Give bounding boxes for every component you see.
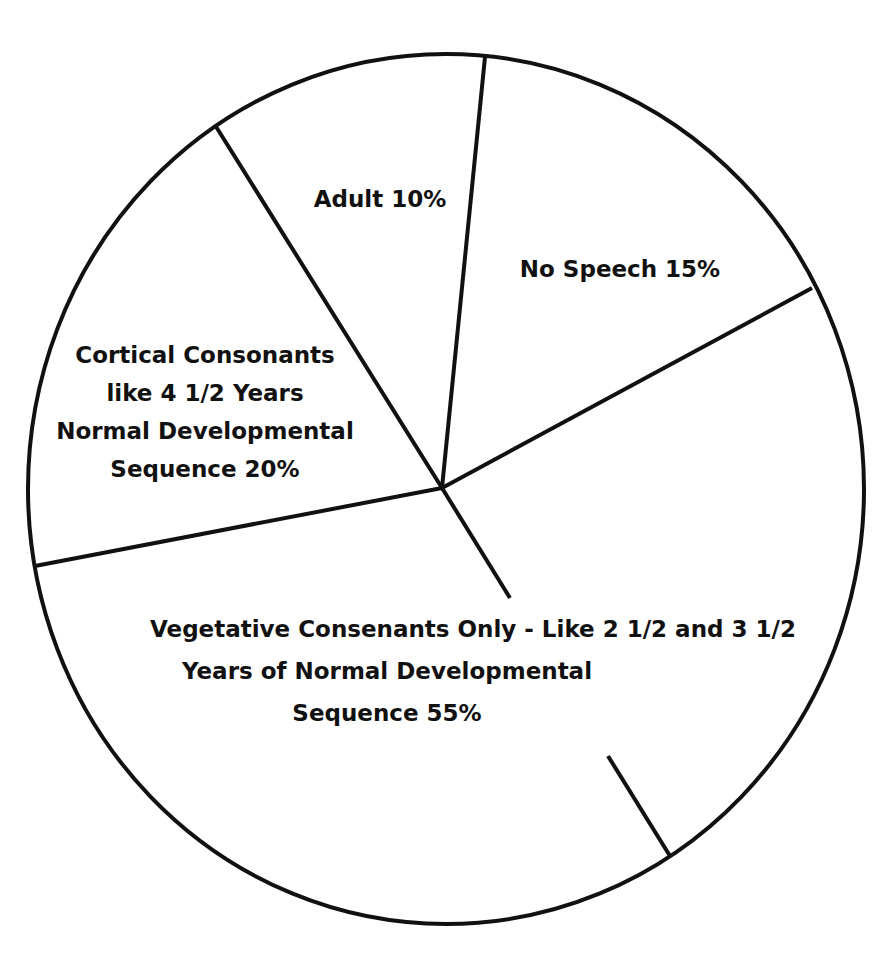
label-line: Sequence 55% — [142, 702, 632, 725]
label-line: Normal Developmental — [40, 420, 370, 443]
label-line: Adult 10% — [290, 188, 470, 211]
label-line: Years of Normal Developmental — [142, 660, 632, 683]
slice-label-no-speech: No Speech 15% — [500, 258, 740, 288]
slice-label-adult: Adult 10% — [290, 188, 470, 218]
label-line: Vegetative Consenants Only - Like 2 1/2 … — [150, 618, 640, 641]
slice-label-cortical: Cortical Consonants like 4 1/2 Years Nor… — [40, 344, 370, 494]
label-line: like 4 1/2 Years — [40, 382, 370, 405]
label-line: Sequence 20% — [40, 458, 370, 481]
slice-label-vegetative: Vegetative Consenants Only - Like 2 1/2 … — [150, 618, 640, 738]
label-line: No Speech 15% — [500, 258, 740, 281]
label-line: Cortical Consonants — [40, 344, 370, 367]
